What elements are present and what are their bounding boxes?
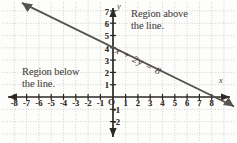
x-tick-label: 5 [168, 98, 181, 108]
y-axis-label: y [117, 1, 121, 11]
y-tick-label: -2 [113, 117, 126, 127]
y-tick-label: 1 [98, 80, 109, 90]
x-tick-label: -3 [69, 98, 82, 108]
x-tick-label: -1 [94, 98, 107, 108]
x-tick-label: -2 [82, 98, 95, 108]
y-tick-label: 5 [98, 31, 109, 41]
y-tick-label: 2 [98, 68, 109, 78]
region-above-label: Region above the line. [131, 8, 188, 31]
y-tick-label: 6 [98, 19, 109, 29]
x-tick-label: -5 [45, 98, 58, 108]
x-tick-label: 6 [181, 98, 194, 108]
x-tick-label: -7 [20, 98, 33, 108]
y-tick-label: 7 [98, 7, 109, 17]
x-tick-label: -4 [57, 98, 70, 108]
x-tick-label: -8 [8, 98, 21, 108]
y-tick-label: -1 [113, 105, 126, 115]
y-tick-label: 3 [98, 56, 109, 66]
x-tick-label: 7 [193, 98, 206, 108]
x-tick-label: 8 [205, 98, 218, 108]
x-tick-label: 2 [131, 98, 144, 108]
region-below-label: Region below the line. [22, 66, 79, 89]
x-tick-label: 4 [156, 98, 169, 108]
y-tick-label: 4 [98, 44, 109, 54]
x-axis-label: x [219, 75, 223, 85]
x-tick-label: -6 [32, 98, 45, 108]
x-tick-label: 3 [144, 98, 157, 108]
graph-figure: Region above the line. Region below the … [0, 0, 237, 143]
